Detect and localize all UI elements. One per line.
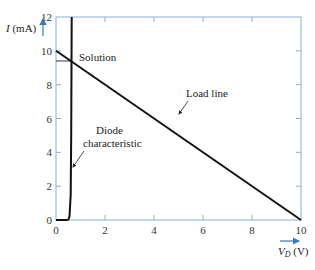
load-line-label: Load line [186,87,228,99]
x-tick-label: 6 [200,224,206,236]
x-axis-label: VD (V) [278,245,309,259]
axis-tick-labels: 0246810024681012 [41,11,307,236]
y-tick-label: 8 [47,79,53,91]
x-tick-label: 0 [53,224,59,236]
diode-leader [73,151,84,167]
axis-ticks [56,17,301,220]
x-tick-label: 8 [249,224,255,236]
y-tick-label: 2 [47,180,53,192]
y-axis-label: I (mA) [5,22,37,35]
plot-frame [56,17,301,220]
x-tick-label: 10 [296,224,308,236]
chart: 0246810024681012 Solution Load line Diod… [0,0,315,270]
solution-label: Solution [79,51,117,63]
y-tick-label: 10 [41,45,53,57]
x-tick-label: 2 [102,224,108,236]
y-tick-label: 6 [47,113,53,125]
y-tick-label: 0 [47,214,53,226]
y-tick-label: 4 [47,146,53,158]
x-tick-label: 4 [151,224,157,236]
load-line-leader [179,101,188,114]
diode-label: Diode [96,124,123,136]
characteristic-label: characteristic [83,137,142,149]
load-line [56,51,301,220]
